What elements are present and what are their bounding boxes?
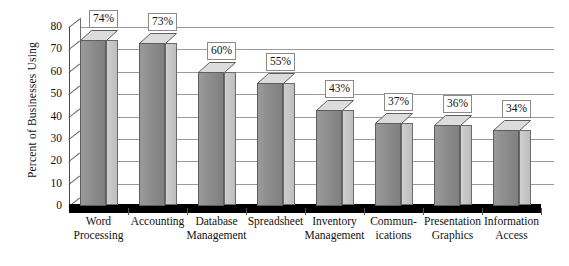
- x-axis-tick-3: [305, 208, 306, 215]
- bar-2: [198, 62, 235, 206]
- value-label-2: 60%: [207, 42, 236, 60]
- bar-0: [80, 30, 117, 206]
- bar-3: [257, 73, 294, 206]
- y-tick-label-40: 40: [40, 111, 62, 122]
- x-category-label-3: Spreadsheet: [242, 215, 309, 229]
- bar-side-face: [224, 72, 236, 205]
- x-category-line2: Processing: [65, 229, 132, 243]
- x-axis-tick-2: [246, 208, 247, 215]
- y-tick-label-70: 70: [40, 43, 62, 54]
- bar-side-face: [460, 125, 472, 205]
- value-label-7: 34%: [502, 100, 531, 118]
- bar-front-face: [198, 72, 224, 206]
- bar-front-face: [80, 40, 106, 206]
- x-category-line1: Spreadsheet: [248, 215, 304, 227]
- x-category-line1: Inventory: [312, 215, 357, 227]
- y-tick-label-80: 80: [40, 21, 62, 32]
- x-category-label-6: PresentationGraphics: [419, 215, 486, 242]
- x-category-line2: ications: [360, 229, 427, 243]
- bar-side-face: [165, 43, 177, 205]
- x-category-line1: Word: [86, 215, 111, 227]
- bar-top-face: [316, 100, 355, 113]
- value-label-1: 73%: [148, 13, 177, 31]
- value-label-0: 74%: [89, 10, 118, 28]
- x-category-label-4: InventoryManagement: [301, 215, 368, 242]
- bar-side-face: [106, 40, 118, 205]
- x-category-label-0: WordProcessing: [65, 215, 132, 242]
- value-label-5: 37%: [384, 93, 413, 111]
- y-tick-label-30: 30: [40, 133, 62, 144]
- bar-5: [375, 113, 412, 206]
- x-category-line1: Database: [195, 215, 237, 227]
- y-tick-label-20: 20: [40, 155, 62, 166]
- x-category-label-2: DatabaseManagement: [183, 215, 250, 242]
- bar-side-face: [519, 130, 531, 205]
- bar-front-face: [493, 130, 519, 206]
- bar-side-face: [283, 83, 295, 205]
- x-category-line2: Graphics: [419, 229, 486, 243]
- y-tick-label-0: 0: [40, 200, 62, 211]
- bar-top-face: [375, 113, 414, 126]
- x-category-line2: Management: [183, 229, 250, 243]
- x-axis-tick-7: [541, 208, 542, 215]
- bar-top-face: [198, 62, 237, 75]
- x-category-label-5: Commun-ications: [360, 215, 427, 242]
- bar-side-face: [401, 123, 413, 205]
- bar-front-face: [434, 125, 460, 206]
- value-label-4: 43%: [325, 80, 354, 98]
- value-label-3: 55%: [266, 53, 295, 71]
- bar-1: [139, 33, 176, 206]
- bar-6: [434, 115, 471, 206]
- bar-top-face: [434, 115, 473, 128]
- x-category-line1: Commun-: [370, 215, 417, 227]
- x-category-line1: Presentation: [424, 215, 481, 227]
- x-axis-tick-5: [423, 208, 424, 215]
- value-label-6: 36%: [443, 95, 472, 113]
- bar-top-face: [257, 73, 296, 86]
- bar-front-face: [257, 83, 283, 206]
- bar-7: [493, 120, 530, 206]
- y-axis-line: [69, 27, 70, 207]
- x-category-label-1: Accounting: [124, 215, 191, 229]
- plot-area: 01020304050607080 74%73%60%55%43%37%36%3…: [0, 0, 569, 266]
- x-axis-tick-6: [482, 208, 483, 215]
- y-tick-label-60: 60: [40, 66, 62, 77]
- bar-side-face: [342, 110, 354, 205]
- x-category-line1: Accounting: [131, 215, 185, 227]
- bar-top-face: [139, 33, 178, 46]
- x-category-label-7: InformationAccess: [478, 215, 545, 242]
- bar-top-face: [493, 120, 532, 133]
- bar-front-face: [139, 43, 165, 206]
- bar-4: [316, 100, 353, 206]
- bar-top-face: [80, 30, 119, 43]
- x-category-line2: Management: [301, 229, 368, 243]
- bar-chart: Percent of Businesses Using 010203040506…: [0, 0, 569, 266]
- y-tick-label-50: 50: [40, 88, 62, 99]
- bar-front-face: [316, 110, 342, 206]
- x-axis-tick-0: [128, 208, 129, 215]
- bar-front-face: [375, 123, 401, 206]
- y-tick-label-10: 10: [40, 178, 62, 189]
- x-axis-tick-4: [364, 208, 365, 215]
- x-category-line2: Access: [478, 229, 545, 243]
- x-axis-tick-1: [187, 208, 188, 215]
- x-category-line1: Information: [484, 215, 539, 227]
